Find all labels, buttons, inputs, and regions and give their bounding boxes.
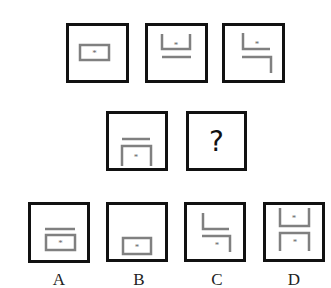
- panel-2: *: [145, 23, 208, 83]
- u-shape-line-figure: *: [145, 23, 208, 83]
- rectangle-star-low-figure: *: [106, 202, 168, 262]
- svg-text:*: *: [293, 237, 298, 247]
- svg-text:*: *: [215, 240, 220, 250]
- svg-text:*: *: [58, 238, 63, 248]
- option-c-panel[interactable]: *: [184, 202, 246, 262]
- panel-1: *: [66, 23, 129, 83]
- option-c-label: C: [202, 270, 232, 288]
- two-l-shapes-star-bottom-figure: *: [184, 202, 246, 262]
- u-inverted-u-two-stars-figure: * *: [263, 202, 325, 262]
- option-a-panel[interactable]: *: [28, 202, 90, 263]
- panel-question: ?: [186, 111, 247, 171]
- panel-3: *: [222, 23, 285, 83]
- svg-text:*: *: [255, 39, 260, 49]
- svg-text:*: *: [292, 213, 297, 223]
- two-l-shapes-figure: *: [222, 23, 285, 83]
- line-rectangle-star-figure: *: [28, 202, 90, 263]
- rectangle-star-figure: *: [66, 23, 129, 83]
- svg-text:*: *: [174, 40, 179, 50]
- svg-text:*: *: [92, 48, 97, 58]
- option-b-panel[interactable]: *: [106, 202, 168, 262]
- option-a-label: A: [44, 270, 74, 288]
- svg-text:*: *: [134, 152, 139, 162]
- line-inverted-u-figure: *: [106, 111, 168, 171]
- panel-4: *: [106, 111, 168, 171]
- question-mark: ?: [189, 127, 244, 157]
- option-d-label: D: [279, 270, 309, 288]
- option-d-panel[interactable]: * *: [263, 202, 325, 262]
- svg-text:*: *: [135, 242, 140, 252]
- option-b-label: B: [124, 270, 154, 288]
